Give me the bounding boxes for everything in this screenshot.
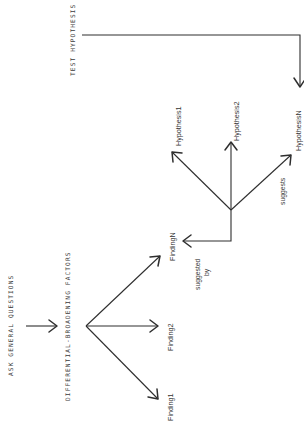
suggested-by-label: suggested [194, 258, 202, 290]
findings-fan [86, 256, 160, 399]
hypothesis-n-label: HypothesisN [294, 110, 303, 151]
research-process-diagram: TEST HYPOTHESIS ASK GENERAL QUESTIONS DI… [0, 0, 304, 442]
ask-general-questions-label: ASK GENERAL QUESTIONS [7, 275, 14, 376]
suggested-by-label-by: by [203, 268, 211, 276]
hypothesis-1-label: Hypothesis1 [174, 106, 183, 146]
suggested-by-connector [183, 210, 231, 247]
finding-n-label: FindingN [168, 232, 177, 261]
differential-broadening-factors-label: DIFFERENTIAL-BROADENING FACTORS [64, 251, 71, 401]
finding-2-label: Finding2 [166, 323, 175, 351]
hypothesis-2-label: Hypothesis2 [232, 101, 241, 141]
suggests-label: suggests [279, 177, 287, 205]
arrowhead-down-icon [294, 78, 304, 87]
test-hypothesis-arrow [82, 35, 304, 87]
finding-1-label: Finding1 [166, 393, 175, 421]
test-hypothesis-label: TEST HYPOTHESIS [69, 4, 76, 76]
hypotheses-fan [172, 142, 291, 210]
ask-to-differential-arrow [26, 320, 57, 332]
